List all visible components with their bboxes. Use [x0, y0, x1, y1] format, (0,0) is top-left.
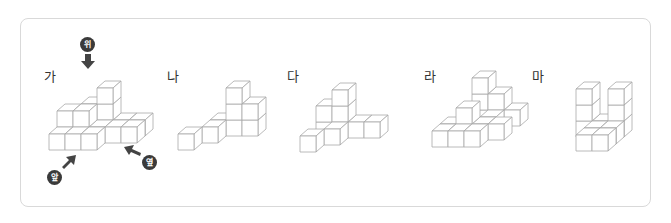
left-up-arrow-icon	[124, 145, 141, 157]
down-arrow-icon	[81, 54, 95, 69]
up-right-arrow-icon	[60, 155, 76, 171]
side-view-badge: 옆	[142, 155, 157, 170]
cube-stack-5	[0, 0, 671, 223]
top-view-badge: 위	[80, 37, 95, 52]
front-view-badge: 앞	[47, 170, 62, 185]
